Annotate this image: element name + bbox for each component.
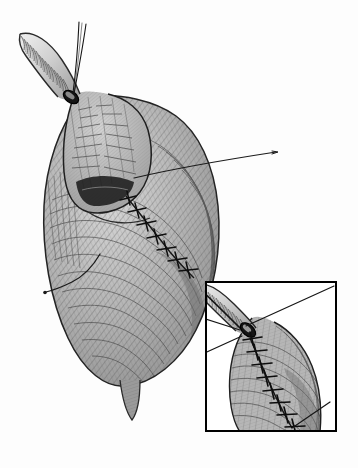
illustration-root: Surgical anastomosis illustration	[0, 0, 358, 468]
magnified-detail-inset	[194, 282, 336, 436]
leader-line-lower-left-tip	[43, 291, 47, 295]
surgical-illustration-canvas	[0, 0, 358, 468]
